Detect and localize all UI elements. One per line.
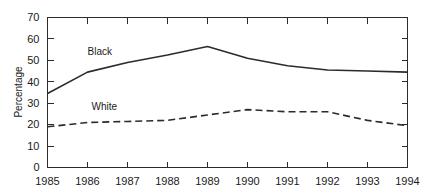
- line-chart-figure: Percentage 010203040506070 1985198619871…: [0, 0, 433, 196]
- series-label-white: White: [92, 101, 118, 112]
- y-tick-label: 0: [33, 161, 39, 173]
- y-axis-title: Percentage: [13, 66, 24, 118]
- y-tick-label: 60: [27, 33, 39, 45]
- y-axis-tick-marks: [48, 18, 408, 168]
- y-tick-label: 50: [27, 54, 39, 66]
- y-axis-title-text: Percentage: [13, 66, 24, 118]
- x-tick-label: 1985: [35, 175, 59, 187]
- plot-frame-path: [48, 18, 408, 168]
- x-axis-tick-marks: [88, 18, 368, 168]
- y-tick-label: 20: [27, 118, 39, 130]
- x-tick-label: 1988: [155, 175, 179, 187]
- y-tick-label: 70: [27, 11, 39, 23]
- x-tick-label: 1986: [75, 175, 99, 187]
- x-tick-label: 1987: [115, 175, 139, 187]
- x-tick-label: 1989: [195, 175, 219, 187]
- x-axis-tick-labels: 1985198619871988198919901991199219931994: [35, 175, 419, 187]
- y-axis-tick-labels: 010203040506070: [27, 11, 39, 173]
- data-series-layer: [48, 46, 408, 126]
- series-inline-labels: BlackWhite: [88, 46, 118, 112]
- x-tick-label: 1994: [395, 175, 419, 187]
- y-tick-label: 40: [27, 76, 39, 88]
- y-tick-label: 10: [27, 140, 39, 152]
- series-line-white: [48, 110, 408, 127]
- chart-canvas: Percentage 010203040506070 1985198619871…: [0, 0, 433, 196]
- series-label-black: Black: [88, 46, 113, 57]
- y-tick-label: 30: [27, 97, 39, 109]
- x-tick-label: 1992: [315, 175, 339, 187]
- plot-frame: [48, 18, 408, 168]
- x-tick-label: 1991: [275, 175, 299, 187]
- x-tick-label: 1993: [355, 175, 379, 187]
- x-tick-label: 1990: [235, 175, 259, 187]
